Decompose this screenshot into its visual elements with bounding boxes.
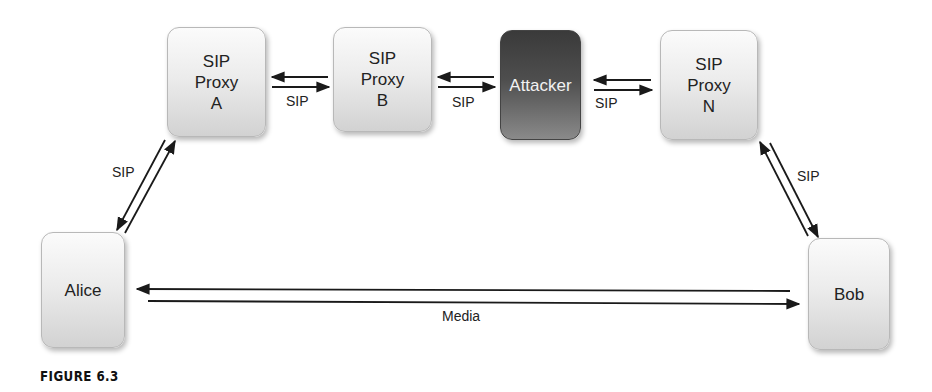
arrow-to-alice bbox=[117, 140, 165, 230]
node-attacker: Attacker bbox=[500, 30, 581, 140]
node-label: SIP Proxy N bbox=[687, 54, 730, 117]
edge-proxy-b-attacker bbox=[438, 77, 495, 87]
edge-label-proxy-n-bob: SIP bbox=[797, 168, 820, 184]
edge-label-attacker-proxy-n: SIP bbox=[595, 95, 618, 111]
edge-label-alice-proxy-a: SIP bbox=[112, 164, 135, 180]
node-label: SIP Proxy A bbox=[195, 51, 238, 114]
node-bob: Bob bbox=[808, 238, 890, 350]
edge-proxy-a-proxy-b bbox=[272, 77, 329, 87]
edge-alice-proxy-a bbox=[117, 140, 175, 233]
sip-attack-diagram: SIP Proxy A SIP Proxy B Attacker SIP Pro… bbox=[0, 0, 932, 392]
arrow-to-bob bbox=[148, 301, 799, 304]
arrow-to-proxy-n bbox=[760, 142, 808, 236]
edge-label-proxy-b-attacker: SIP bbox=[452, 94, 475, 110]
node-sip-proxy-n: SIP Proxy N bbox=[660, 30, 758, 140]
edge-label-media: Media bbox=[442, 308, 480, 324]
edges-layer bbox=[0, 0, 932, 392]
node-sip-proxy-a: SIP Proxy A bbox=[167, 27, 266, 137]
node-label: Alice bbox=[65, 280, 102, 301]
node-label: Attacker bbox=[509, 75, 571, 96]
node-alice: Alice bbox=[41, 232, 125, 348]
edge-attacker-proxy-n bbox=[594, 80, 652, 90]
arrow-to-proxy-a bbox=[125, 141, 175, 233]
node-label: SIP Proxy B bbox=[361, 48, 404, 111]
edge-label-proxy-a-proxy-b: SIP bbox=[286, 93, 309, 109]
node-sip-proxy-b: SIP Proxy B bbox=[333, 27, 432, 132]
figure-caption: FIGURE 6.3 bbox=[40, 368, 119, 384]
node-label: Bob bbox=[834, 284, 864, 305]
arrow-to-bob bbox=[770, 143, 818, 237]
arrow-to-alice bbox=[137, 289, 790, 291]
edge-proxy-n-bob bbox=[760, 142, 818, 237]
edge-alice-bob-media bbox=[137, 289, 799, 304]
